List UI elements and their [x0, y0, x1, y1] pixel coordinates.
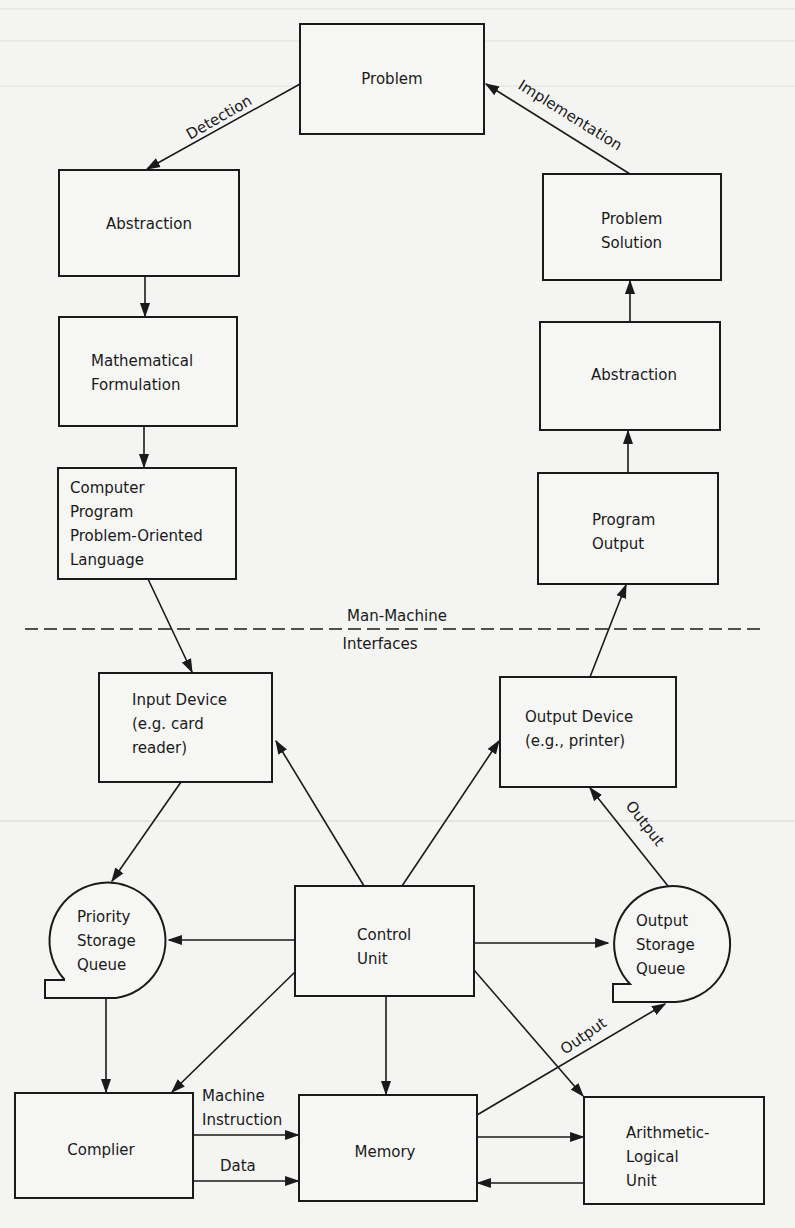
node-program-output-line2: Output [592, 535, 644, 553]
node-problem-label: Problem [361, 70, 422, 88]
node-input-device-line3: reader) [132, 739, 187, 757]
edge-detection [147, 84, 300, 169]
node-problem-solution: Problem Solution [543, 174, 721, 280]
node-program-output: Program Output [538, 473, 718, 584]
label-output-to-device: Output [622, 797, 668, 849]
node-computer-program-line4: Language [70, 551, 144, 569]
node-computer-program-line3: Problem-Oriented [70, 527, 203, 545]
node-alu-line1: Arithmetic- [626, 1124, 710, 1142]
node-alu-line2: Logical [626, 1148, 679, 1166]
label-machine-instruction-2: Instruction [202, 1111, 282, 1129]
node-memory: Memory [299, 1095, 477, 1201]
node-output-storage-queue: Output Storage Queue [613, 886, 730, 1002]
node-math-formulation-line1: Mathematical [91, 352, 193, 370]
edge-output-device-to-program-output [590, 585, 626, 677]
node-abstraction-left: Abstraction [59, 170, 239, 276]
node-output-queue-line1: Output [636, 912, 688, 930]
label-detection: Detection [183, 91, 255, 143]
edge-control-to-alu [474, 970, 583, 1096]
node-priority-queue-line3: Queue [77, 956, 126, 974]
man-machine-divider: Man-Machine Interfaces [25, 607, 760, 653]
node-output-device-line2: (e.g., printer) [525, 732, 625, 750]
node-output-queue-line3: Queue [636, 960, 685, 978]
node-problem-solution-line1: Problem [601, 210, 662, 228]
node-math-formulation-line2: Formulation [91, 376, 180, 394]
edge-control-to-output-device [402, 741, 499, 886]
node-compiler: Complier [15, 1093, 193, 1198]
node-input-device-line2: (e.g. card [132, 715, 204, 733]
node-computer-program: Computer Program Problem-Oriented Langua… [58, 468, 236, 579]
edge-control-to-input-device [276, 741, 364, 886]
edge-input-device-to-priority-queue [112, 782, 181, 881]
label-data: Data [220, 1157, 256, 1175]
node-control-unit-line1: Control [357, 926, 411, 944]
divider-label-bottom: Interfaces [343, 635, 418, 653]
node-output-queue-line2: Storage [636, 936, 695, 954]
node-computer-program-line2: Program [70, 503, 133, 521]
node-problem: Problem [300, 24, 484, 134]
node-priority-storage-queue: Priority Storage Queue [45, 883, 165, 998]
node-abstraction-left-label: Abstraction [106, 215, 192, 233]
label-implementation: Implementation [515, 76, 626, 154]
node-alu-line3: Unit [626, 1172, 657, 1190]
node-problem-solution-line2: Solution [601, 234, 662, 252]
node-control-unit-line2: Unit [357, 950, 388, 968]
node-alu: Arithmetic- Logical Unit [584, 1097, 764, 1204]
node-priority-queue-line2: Storage [77, 932, 136, 950]
edge-program-to-input-device [148, 579, 192, 672]
node-math-formulation: Mathematical Formulation [59, 317, 237, 426]
node-priority-queue-line1: Priority [77, 908, 131, 926]
node-control-unit: Control Unit [295, 886, 474, 996]
edge-control-to-compiler [172, 972, 295, 1092]
node-compiler-label: Complier [67, 1141, 135, 1159]
node-input-device: Input Device (e.g. card reader) [99, 673, 272, 782]
node-output-device: Output Device (e.g., printer) [500, 677, 676, 787]
node-input-device-line1: Input Device [132, 691, 227, 709]
node-output-device-line1: Output Device [525, 708, 633, 726]
flow-diagram: Problem Abstraction Problem Solution Mat… [0, 0, 795, 1228]
node-computer-program-line1: Computer [70, 479, 145, 497]
node-memory-label: Memory [354, 1143, 415, 1161]
node-abstraction-right-label: Abstraction [591, 366, 677, 384]
label-machine-instruction-1: Machine [202, 1087, 265, 1105]
node-abstraction-right: Abstraction [540, 322, 720, 430]
divider-label-top: Man-Machine [347, 607, 447, 625]
node-program-output-line1: Program [592, 511, 655, 529]
